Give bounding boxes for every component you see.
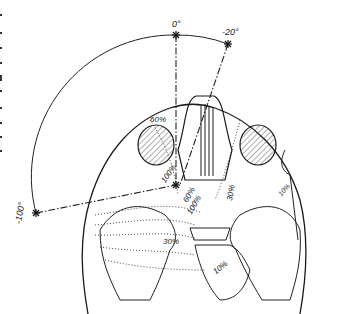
right-orbit: [240, 125, 276, 165]
isodose-label-30-lower: 30%: [163, 238, 179, 246]
angle-label-minus20: -20°: [222, 28, 239, 37]
isodose-label-60-upper: 60%: [150, 116, 166, 124]
sella: [190, 228, 230, 240]
edge-mark: [0, 14, 2, 16]
skull-section-diagram: [0, 0, 347, 314]
edge-mark: [0, 150, 2, 152]
edge-mark: [0, 136, 2, 138]
edge-mark: [0, 107, 2, 109]
isodose-line: [105, 260, 205, 270]
edge-mark: [0, 32, 2, 34]
isocenter-star: [172, 181, 180, 189]
isodose-line: [95, 220, 195, 225]
edge-mark: [0, 122, 2, 124]
edge-mark: [0, 90, 2, 92]
left-orbit: [138, 125, 174, 165]
isodose-line: [95, 234, 195, 238]
isodose-line: [100, 247, 195, 255]
edge-mark: [0, 62, 2, 64]
beam-arc: [31, 35, 228, 213]
beam-axis-100: [36, 185, 176, 213]
beam-axis-20: [180, 44, 228, 185]
source-star-20: [224, 40, 232, 48]
edge-mark: [0, 75, 2, 81]
brainstem: [195, 245, 250, 300]
angle-label-0: 0°: [172, 20, 181, 29]
source-star-100: [32, 209, 40, 217]
edge-mark: [0, 47, 2, 49]
source-star-0: [172, 31, 180, 39]
brain-right: [230, 207, 300, 300]
